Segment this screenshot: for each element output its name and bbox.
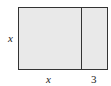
left-side-label: x xyxy=(8,33,13,44)
outer-rectangle xyxy=(18,7,108,70)
divider-line xyxy=(81,8,82,69)
bottom-x-label: x xyxy=(46,74,51,85)
area-model-diagram: x x 3 xyxy=(0,0,111,86)
bottom-3-label: 3 xyxy=(91,74,97,85)
